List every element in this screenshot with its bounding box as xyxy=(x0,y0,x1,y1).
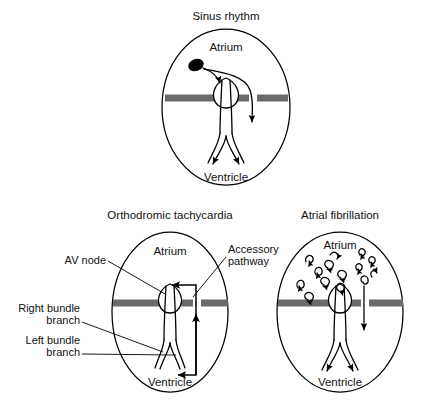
sa-node-sinus xyxy=(187,57,205,73)
panel-orthodromic-tachycardia: Orthodromic tachycardia Atrium Ventricle… xyxy=(18,209,279,392)
av-node-bulb-sinus xyxy=(214,78,239,108)
av-node-bulb-fibrillation xyxy=(328,284,351,313)
right-bundle-branch-inner-orthodromic xyxy=(160,343,170,369)
panel-title-sinus-rhythm: Sinus rhythm xyxy=(192,10,259,22)
atrium-label-orthodromic: Atrium xyxy=(153,245,186,257)
atrium-label-sinus: Atrium xyxy=(209,41,242,53)
fib-wave-9 xyxy=(359,249,365,256)
fib-wave-13 xyxy=(361,276,368,284)
callout-right-bundle-line2: branch xyxy=(46,314,80,326)
leader-accessory-pathway xyxy=(193,257,226,297)
leader-right-bundle xyxy=(82,322,163,352)
circuit-bottom-limb-orthodromic xyxy=(178,345,196,375)
atrium-label-fibrillation: Atrium xyxy=(323,239,356,251)
panel-title-orthodromic: Orthodromic tachycardia xyxy=(107,209,233,221)
panel-sinus-rhythm: Sinus rhythm Atrium Ventricle xyxy=(162,10,290,185)
fib-wave-1 xyxy=(306,255,314,262)
fib-wave-12 xyxy=(371,271,377,277)
left-bundle-branch-inner-orthodromic xyxy=(170,343,180,369)
cardiac-conduction-diagram: Sinus rhythm Atrium Ventricle Orthodromi… xyxy=(0,0,423,406)
callout-right-bundle-line1: Right bundle xyxy=(18,302,80,314)
ventricle-label-fibrillation: Ventricle xyxy=(318,376,362,388)
callout-left-bundle-line1: Left bundle xyxy=(26,334,80,346)
leader-left-bundle xyxy=(82,354,176,355)
left-bundle-branch-outer-sinus xyxy=(232,133,244,163)
callout-accessory-line1: Accessory xyxy=(228,243,279,255)
right-bundle-branch-outer-fibrillation xyxy=(322,340,334,370)
ventricle-label-orthodromic: Ventricle xyxy=(148,376,192,388)
right-bundle-branch-outer-sinus xyxy=(208,133,220,163)
fib-wave-3 xyxy=(297,280,304,288)
fib-wave-10 xyxy=(369,257,375,264)
fib-wave-7 xyxy=(338,270,347,279)
fib-wave-5 xyxy=(325,260,334,269)
fib-wave-6 xyxy=(321,277,330,286)
leader-av-node xyxy=(108,261,165,294)
callout-accessory-line2: pathway xyxy=(228,255,269,267)
fib-wave-11 xyxy=(356,264,362,271)
left-bundle-branch-outer-fibrillation xyxy=(346,340,358,370)
callout-left-bundle-line2: branch xyxy=(46,346,80,358)
callout-av-node-label: AV node xyxy=(65,254,106,266)
av-node-bulb-orthodromic xyxy=(158,284,181,313)
panel-atrial-fibrillation: Atrial fibrillation Atrium xyxy=(277,209,403,392)
panel-title-atrial-fibrillation: Atrial fibrillation xyxy=(301,209,379,221)
fib-wave-4 xyxy=(330,252,338,259)
fib-wave-2 xyxy=(315,267,322,275)
ventricle-label-sinus: Ventricle xyxy=(204,171,248,183)
